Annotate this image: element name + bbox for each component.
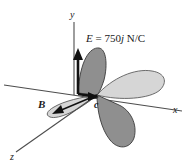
em-wave-diagram-svg <box>0 0 188 166</box>
em-wave-figure: y x z B c E = 750j N/C <box>0 0 188 166</box>
y-axis-label: y <box>70 10 74 20</box>
equation-units: N/C <box>127 32 145 44</box>
equation-symbol-E: E <box>86 32 93 44</box>
b-field-label: B <box>38 99 45 110</box>
equation-magnitude: 750 <box>104 32 121 44</box>
z-axis-label: z <box>10 152 14 162</box>
z-axis <box>16 95 97 152</box>
e-field-wave-positive-lobe <box>78 48 106 95</box>
x-axis-label: x <box>173 105 177 115</box>
c-propagation-label: c <box>94 100 98 110</box>
e-field-equation-label: E = 750j N/C <box>86 33 145 44</box>
b-field-wave-far-lobe <box>97 70 164 98</box>
